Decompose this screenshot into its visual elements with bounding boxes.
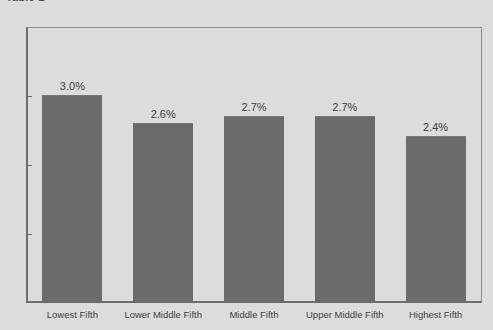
- x-axis-category-label: Lower Middle Fifth: [124, 309, 202, 320]
- bar-value-label: 2.7%: [332, 101, 357, 113]
- bar-value-label: 2.7%: [241, 101, 266, 113]
- y-axis: 0%1%2%3%4%: [0, 0, 26, 330]
- bar: [315, 116, 375, 303]
- x-axis-category-label: Upper Middle Fifth: [306, 309, 384, 320]
- bars-layer: 3.0%2.6%2.7%2.7%2.4%: [27, 27, 481, 303]
- bar-chart: Table 1 0%1%2%3%4% 3.0%2.6%2.7%2.7%2.4% …: [0, 0, 493, 330]
- bar-value-label: 2.4%: [423, 121, 448, 133]
- bar: [224, 116, 284, 303]
- bar-group: 2.7%: [224, 27, 284, 303]
- bar-value-label: 3.0%: [60, 80, 85, 92]
- bar-group: 2.6%: [133, 27, 193, 303]
- bar: [42, 95, 102, 303]
- x-axis-category-label: Highest Fifth: [409, 309, 462, 320]
- bar-group: 2.7%: [315, 27, 375, 303]
- x-axis-category-label: Middle Fifth: [229, 309, 278, 320]
- x-axis-category-label: Lowest Fifth: [47, 309, 98, 320]
- bar: [406, 136, 466, 303]
- x-axis-labels: Lowest FifthLower Middle FifthMiddle Fif…: [27, 309, 481, 329]
- bar-group: 3.0%: [42, 27, 102, 303]
- bar: [133, 123, 193, 303]
- bar-value-label: 2.6%: [151, 108, 176, 120]
- bar-group: 2.4%: [406, 27, 466, 303]
